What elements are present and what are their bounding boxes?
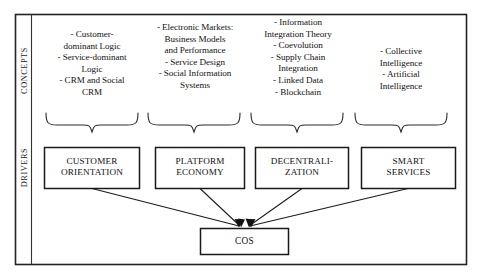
- row-label-concepts: CONCEPTS: [20, 39, 29, 103]
- concept-line: Integration Theory: [245, 29, 351, 41]
- concept-line: Intelligence: [350, 58, 452, 70]
- concept-column-customer-orientation: - Customer- dominant Logic - Service-dom…: [38, 29, 146, 99]
- line-smart-services-to-cos: [250, 189, 408, 227]
- driver-line: ORIENTATION: [44, 167, 140, 178]
- brace-smart-services: [355, 113, 447, 132]
- concept-column-decentralization: - Information Integration Theory - Coevo…: [245, 17, 351, 98]
- concept-line: Business Models: [141, 34, 249, 46]
- brace-customer-orientation: [46, 113, 138, 132]
- driver-line: SMART: [361, 156, 456, 167]
- concept-column-platform-economy: - Electronic Markets: Business Models an…: [141, 22, 249, 92]
- concept-line: and Performance: [141, 45, 249, 57]
- concept-line: - Information: [245, 17, 351, 29]
- driver-line: DECENTRALI-: [255, 156, 349, 167]
- concept-line: CRM: [38, 87, 146, 99]
- concept-line: - Service-dominant: [38, 52, 146, 64]
- concept-line: dominant Logic: [38, 41, 146, 53]
- concept-line: - Collective: [350, 46, 452, 58]
- concept-line: - Electronic Markets:: [141, 22, 249, 34]
- row-label-drivers: DRIVERS: [20, 138, 29, 198]
- concept-line: - CRM and Social: [38, 75, 146, 87]
- brace-decentralization: [251, 113, 343, 132]
- concept-line: - Coevolution: [245, 40, 351, 52]
- framework-diagram: CONCEPTS DRIVERS - Customer- dominant Lo…: [0, 0, 481, 280]
- outcome-label-cos: COS: [200, 236, 289, 246]
- driver-line: PLATFORM: [155, 156, 245, 167]
- concept-braces: [46, 113, 447, 132]
- concept-line: Intelligence: [350, 81, 452, 93]
- concept-line: - Linked Data: [245, 75, 351, 87]
- concept-line: - Customer-: [38, 29, 146, 41]
- driver-line: SERVICES: [361, 167, 456, 178]
- driver-label-decentralization: DECENTRALI- ZATION: [255, 156, 349, 179]
- concept-line: - Blockchain: [245, 87, 351, 99]
- concept-line: Systems: [141, 80, 249, 92]
- concept-line: - Artificial: [350, 69, 452, 81]
- driver-label-smart-services: SMART SERVICES: [361, 156, 456, 179]
- driver-line: CUSTOMER: [44, 156, 140, 167]
- driver-label-customer-orientation: CUSTOMER ORIENTATION: [44, 156, 140, 179]
- concept-line: Integration: [245, 63, 351, 75]
- driver-label-platform-economy: PLATFORM ECONOMY: [155, 156, 245, 179]
- concept-line: - Social Information: [141, 68, 249, 80]
- line-platform-economy-to-cos: [200, 189, 240, 227]
- line-customer-orientation-to-cos: [92, 189, 239, 227]
- concept-line: Logic: [38, 64, 146, 76]
- brace-platform-economy: [148, 113, 240, 132]
- driver-line: ZATION: [255, 167, 349, 178]
- concept-line: - Service Design: [141, 57, 249, 69]
- driver-line: ECONOMY: [155, 167, 245, 178]
- concept-line: - Supply Chain: [245, 52, 351, 64]
- concept-column-smart-services: - Collective Intelligence - Artificial I…: [350, 46, 452, 92]
